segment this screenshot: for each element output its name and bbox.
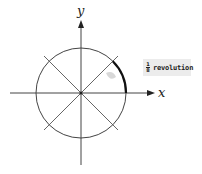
fraction: 1 8 bbox=[146, 62, 150, 73]
x-axis-arrow-icon bbox=[147, 90, 155, 96]
circle-diagram bbox=[0, 0, 202, 174]
y-axis-label: y bbox=[77, 4, 84, 17]
arc-shading bbox=[106, 72, 116, 79]
revolution-callout: 1 8 revolution bbox=[143, 59, 191, 76]
y-axis-arrow-icon bbox=[78, 20, 84, 28]
fraction-denominator: 8 bbox=[146, 68, 149, 73]
x-axis-label: x bbox=[158, 86, 165, 99]
callout-text: revolution bbox=[153, 64, 193, 72]
origin-point bbox=[80, 92, 83, 95]
diagram-canvas: y x 1 8 revolution bbox=[0, 0, 202, 174]
